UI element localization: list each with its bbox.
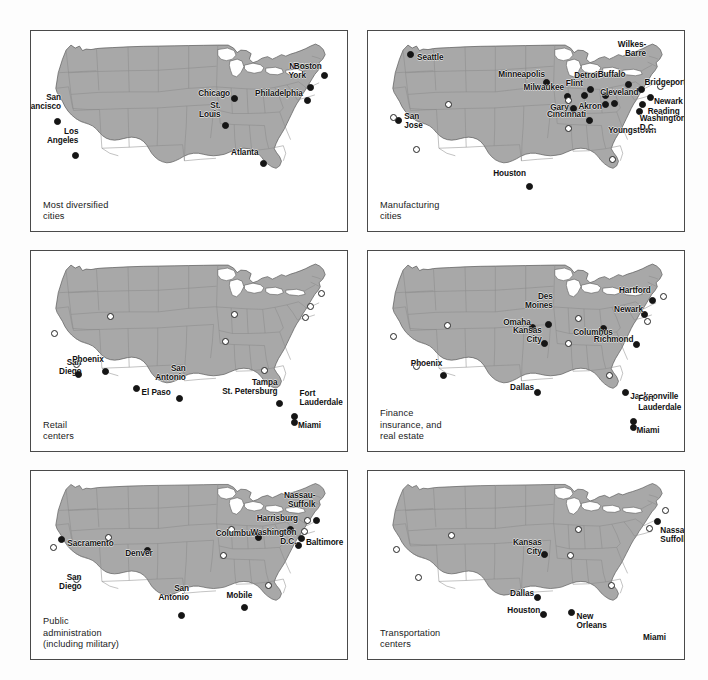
panel-caption: Most diversified cities [43,200,108,223]
map-panel-transportation-centers[interactable]: Kansas CityDallasHoustonNew OrleansNassa… [367,470,685,660]
us-map-outline [37,35,340,191]
map-panel-retail-centers[interactable]: San DiegoPhoenixEl PasoSan AntonioTampa … [30,250,348,452]
city-dot-filled-icon [630,418,637,425]
city-label: Miami [637,426,660,435]
us-map-outline [374,255,677,411]
map-panel-manufacturing-cities[interactable]: SeattleSan JoseMinneapolisMilwaukeeGaryC… [367,30,685,232]
us-map-outline [37,255,340,411]
city-label: Miami [643,633,666,642]
city-dot-filled-icon [291,413,298,420]
map-canvas: San DiegoPhoenixEl PasoSan AntonioTampa … [31,251,347,451]
us-map-outline [374,35,677,191]
city-label: Miami [298,421,321,430]
panel-caption: Finance insurance, and real estate [380,408,442,443]
maps-figure: San FranciscoLos AngelesChicagoSt. Louis… [0,0,708,680]
map-panel-public-administration[interactable]: SacramentoSan DiegoDenverSan AntonioColu… [30,470,348,660]
map-panel-most-diversified-cities[interactable]: San FranciscoLos AngelesChicagoSt. Louis… [30,30,348,232]
us-map-outline [374,475,677,622]
city-dot-filled-icon [291,419,298,426]
panel-caption: Manufacturing cities [380,200,440,223]
city-dot-filled-icon [630,424,637,431]
panel-caption: Public administration (including militar… [43,616,119,651]
map-panel-finance-insurance-real-estate[interactable]: PhoenixOmahaDes MoinesKansas CityDallasC… [367,250,685,452]
panel-caption: Transportation centers [380,628,440,651]
panel-caption: Retail centers [43,420,74,443]
us-map-outline [37,475,340,622]
